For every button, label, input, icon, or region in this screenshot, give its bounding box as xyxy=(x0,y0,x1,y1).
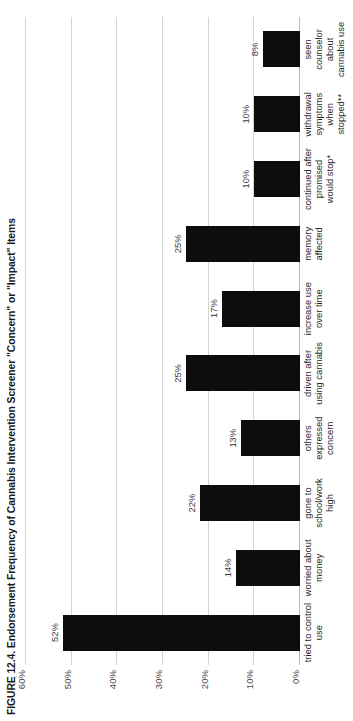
bar: 25% xyxy=(186,226,300,262)
bar: 25% xyxy=(186,355,300,391)
bar-column: 8% xyxy=(26,17,300,82)
y-axis-tick-label: 10% xyxy=(244,670,255,689)
bar-column: 10% xyxy=(26,82,300,147)
bar: 14% xyxy=(236,550,300,586)
bar: 52% xyxy=(63,615,300,651)
figure-rotated-canvas: FIGURE 12.4. Endorsement Frequency of Ca… xyxy=(0,0,353,721)
bar-column: 13% xyxy=(26,406,300,471)
bar-value-label: 25% xyxy=(172,364,183,383)
x-axis-label: driven after using cannabis xyxy=(302,341,346,406)
bar: 10% xyxy=(254,96,300,132)
bar-value-label: 25% xyxy=(172,234,183,253)
x-axis-category-labels: tried to control useworried about moneyg… xyxy=(302,17,346,665)
bar-column: 14% xyxy=(26,535,300,600)
bar-column: 25% xyxy=(26,341,300,406)
bar: 22% xyxy=(200,485,300,521)
x-axis-label: seen counselor about cannabis use xyxy=(302,17,346,82)
bar: 17% xyxy=(222,291,300,327)
y-axis-tick-label: 60% xyxy=(16,670,27,689)
x-axis-label: worried about money xyxy=(302,535,346,600)
x-axis-label: withdrawal symptoms when stopped** xyxy=(302,82,346,147)
bar: 13% xyxy=(241,420,300,456)
figure-title: FIGURE 12.4. Endorsement Frequency of Ca… xyxy=(6,5,17,715)
bar-column: 52% xyxy=(26,600,300,665)
bar-column: 17% xyxy=(26,276,300,341)
bar-value-label: 52% xyxy=(49,623,60,642)
y-axis-tick-label: 50% xyxy=(61,670,72,689)
bar: 10% xyxy=(254,161,300,197)
y-axis-tick-label: 0% xyxy=(290,670,301,684)
bar: 8% xyxy=(263,31,300,67)
y-axis-tick-label: 30% xyxy=(153,670,164,689)
bar-value-label: 17% xyxy=(208,299,219,318)
bar-column: 10% xyxy=(26,147,300,212)
x-axis-label: gone to school/work high xyxy=(302,471,346,536)
bar-column: 22% xyxy=(26,471,300,536)
x-axis-label: increase use over time xyxy=(302,276,346,341)
x-axis-label: memory affected xyxy=(302,211,346,276)
y-axis-tick-label: 20% xyxy=(198,670,209,689)
x-axis-label: others expressed concern xyxy=(302,406,346,471)
bar-value-label: 8% xyxy=(249,43,260,57)
bar-value-label: 13% xyxy=(227,429,238,448)
bar-column: 25% xyxy=(26,211,300,276)
bar-value-label: 22% xyxy=(186,494,197,513)
x-axis-label: continued after promised would stop* xyxy=(302,147,346,212)
bar-value-label: 14% xyxy=(222,558,233,577)
x-axis-label: tried to control use xyxy=(302,600,346,665)
chart-plot-area: 0%10%20%30%40%50%60% 52%14%22%13%25%17%2… xyxy=(26,17,300,665)
bar-value-label: 10% xyxy=(240,170,251,189)
y-axis-tick-label: 40% xyxy=(107,670,118,689)
bar-series: 52%14%22%13%25%17%25%10%10%8% xyxy=(26,17,300,665)
bar-value-label: 10% xyxy=(240,105,251,124)
